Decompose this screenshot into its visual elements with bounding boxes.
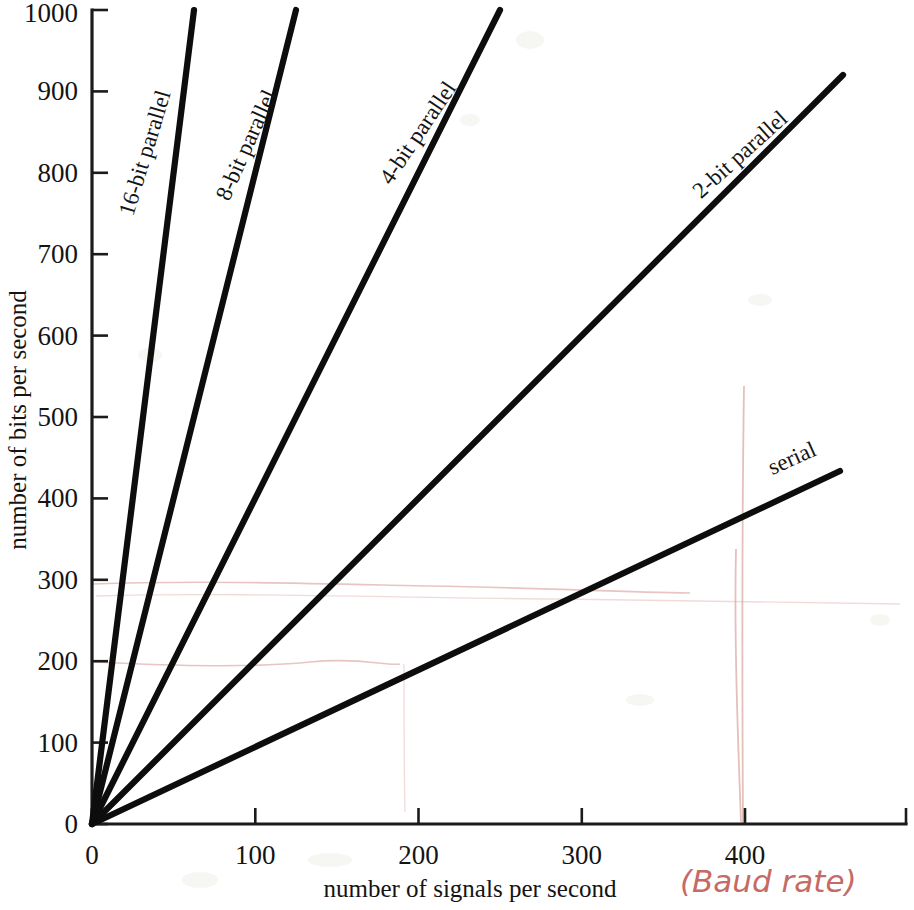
y-tick-label: 400 (38, 483, 79, 513)
y-tick-label: 1000 (24, 0, 78, 28)
y-axis-title: number of bits per second (4, 290, 31, 550)
x-tick-label: 300 (562, 840, 603, 870)
y-tick-label: 100 (38, 728, 79, 758)
y-tick-label: 200 (38, 646, 79, 676)
y-tick-label: 500 (38, 402, 79, 432)
y-tick-label: 300 (38, 565, 79, 595)
x-tick-label: 0 (85, 840, 99, 870)
x-axis-title: number of signals per second (324, 875, 617, 902)
line-chart-canvas: 0 100 200 300 400 500 600 700 800 900 10… (0, 0, 914, 910)
x-tick-label: 100 (235, 840, 276, 870)
y-tick-label: 0 (65, 809, 79, 839)
y-tick-label: 800 (38, 158, 79, 188)
x-tick-label: 200 (398, 840, 439, 870)
y-tick-label: 900 (38, 76, 79, 106)
y-tick-label: 600 (38, 321, 79, 351)
y-tick-label: 700 (38, 239, 79, 269)
baud-rate-handwritten-annotation: (Baud rate) (680, 863, 857, 899)
chart-figure: 0 100 200 300 400 500 600 700 800 900 10… (0, 0, 914, 910)
